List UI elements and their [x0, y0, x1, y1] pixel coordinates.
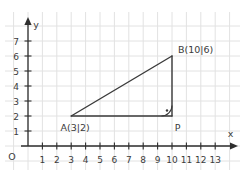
x-tick-label: 4 [83, 155, 89, 165]
y-axis-arrow [24, 17, 31, 25]
x-tick-label: 5 [97, 155, 103, 165]
coordinate-diagram: 123456789101112131234567xyOA(3|2)B(10|6)… [0, 0, 243, 178]
x-tick-label: 7 [126, 155, 132, 165]
x-tick-label: 3 [68, 155, 74, 165]
y-axis-label: y [33, 19, 39, 30]
x-tick-label: 13 [209, 155, 220, 165]
y-tick-label: 2 [13, 112, 19, 122]
point-label-P: P [175, 122, 181, 133]
figure-svg: 123456789101112131234567xyOA(3|2)B(10|6)… [0, 0, 243, 178]
y-tick-label: 7 [13, 37, 19, 47]
x-tick-label: 8 [140, 155, 146, 165]
y-tick-label: 5 [13, 67, 19, 77]
x-tick-label: 11 [181, 155, 192, 165]
x-tick-label: 1 [40, 155, 46, 165]
x-tick-label: 6 [112, 155, 118, 165]
x-tick-label: 2 [54, 155, 60, 165]
x-tick-label: 12 [195, 155, 206, 165]
x-axis-label: x [228, 128, 234, 139]
y-tick-label: 1 [13, 127, 19, 137]
right-angle-dot [166, 109, 168, 111]
y-tick-label: 6 [13, 52, 19, 62]
point-label-B: B(10|6) [178, 44, 213, 55]
x-tick-label: 9 [155, 155, 161, 165]
point-label-A: A(3|2) [61, 122, 90, 133]
origin-label: O [8, 151, 15, 162]
y-tick-label: 4 [13, 82, 19, 92]
x-axis-arrow [230, 142, 238, 149]
x-tick-label: 10 [166, 155, 178, 165]
y-tick-label: 3 [13, 97, 19, 107]
